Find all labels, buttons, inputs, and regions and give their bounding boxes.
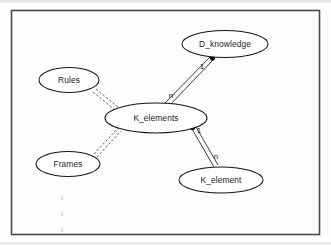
node-d-knowledge[interactable]: D_knowledge	[182, 31, 268, 58]
scan-artifact-top	[0, 0, 331, 3]
node-k-elements-label: K_elements	[133, 113, 178, 123]
cardinality-label-k-elements-to-k-element-source: 1	[197, 126, 202, 135]
node-rules[interactable]: Rules	[39, 68, 99, 93]
cardinality-label-k-elements-to-d-knowledge-target: 1	[200, 62, 205, 71]
node-rules-label: Rules	[58, 75, 80, 85]
cardinality-label-k-elements-to-k-element-target: n	[214, 152, 218, 161]
node-k-element-label: K_element	[201, 175, 243, 185]
diagram-svg: D_knowledge Rules K_elements Frames K_el…	[0, 0, 331, 245]
cardinality-label-k-elements-to-d-knowledge-source: n	[169, 91, 173, 100]
node-k-element[interactable]: K_element	[179, 167, 263, 193]
node-frames-label: Frames	[54, 159, 83, 169]
node-frames[interactable]: Frames	[36, 152, 100, 177]
node-d-knowledge-label: D_knowledge	[199, 39, 251, 49]
diagram-canvas: D_knowledge Rules K_elements Frames K_el…	[0, 0, 331, 245]
node-k-elements[interactable]: K_elements	[105, 103, 207, 133]
